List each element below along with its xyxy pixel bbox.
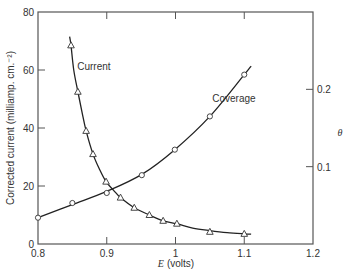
circle-marker [242,72,247,77]
x-axis-unit: (volts) [167,258,194,269]
series-coverage [35,66,251,220]
axis-labels: Corrected current (milliamp. cm.⁻²) E(vo… [5,51,343,269]
triangle-marker [90,151,97,157]
x-tick-label: 1.2 [306,248,320,259]
circle-marker [139,173,144,178]
chart: 0.80.911.11.20204060800.10.2 Corrected c… [0,0,349,278]
data-series [35,37,251,237]
plot-frame [38,12,313,244]
plot-border [38,12,313,244]
circle-marker [172,147,177,152]
triangle-marker [131,204,138,210]
circle-marker [35,215,40,220]
y-tick-label: 80 [23,7,35,18]
inline-series-labels: CurrentCoverage [77,61,256,104]
x-axis-label: E(volts) [157,258,194,269]
x-tick-label: 0.9 [100,248,114,259]
circle-marker [104,190,109,195]
y-tick-label: 0 [28,239,34,250]
y-tick-label: 60 [23,65,35,76]
circle-marker [207,114,212,119]
y-tick-label: 20 [23,181,35,192]
x-axis-variable: E [157,258,164,269]
y-tick-label: 40 [23,123,35,134]
right-axis-label: θ [338,127,343,138]
label-coverage: Coverage [212,93,256,104]
label-current: Current [77,61,111,72]
y-axis-label: Corrected current (milliamp. cm.⁻²) [5,51,16,205]
circle-marker [70,200,75,205]
y-right-tick-label: 0.2 [317,84,331,95]
triangle-marker [68,42,75,48]
triangle-marker [83,127,90,133]
y-right-tick-label: 0.1 [317,162,331,173]
x-tick-label: 1.1 [237,248,251,259]
triangle-marker [75,88,82,94]
coverage-curve [38,66,251,218]
